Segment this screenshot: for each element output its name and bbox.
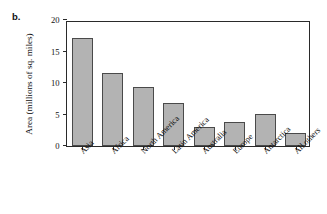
figure-panel-b: b. Area (millions of sq. miles) 05101520…	[0, 0, 327, 214]
y-tick-label: 5	[55, 110, 59, 119]
y-tick-20: 20	[63, 19, 68, 20]
y-tick-label: 0	[55, 142, 59, 151]
y-tick-label: 20	[51, 16, 60, 25]
panel-letter: b.	[12, 12, 20, 22]
y-tick-5: 5	[63, 114, 68, 115]
plot-area: 05101520	[66, 21, 310, 147]
y-tick-0: 0	[63, 145, 68, 146]
y-tick-label: 10	[51, 79, 60, 88]
y-axis-title: Area (millions of sq. miles)	[24, 33, 34, 134]
y-tick-label: 15	[51, 47, 60, 56]
bar	[72, 38, 93, 146]
y-tick-10: 10	[63, 82, 68, 83]
bar	[102, 73, 123, 146]
y-tick-15: 15	[63, 51, 68, 52]
y-axis-title-container: Area (millions of sq. miles)	[22, 21, 36, 147]
